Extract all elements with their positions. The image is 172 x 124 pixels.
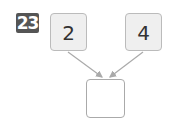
left-arrow-icon <box>68 52 102 77</box>
right-arrow-icon <box>110 52 143 77</box>
answer-box[interactable] <box>86 79 125 118</box>
